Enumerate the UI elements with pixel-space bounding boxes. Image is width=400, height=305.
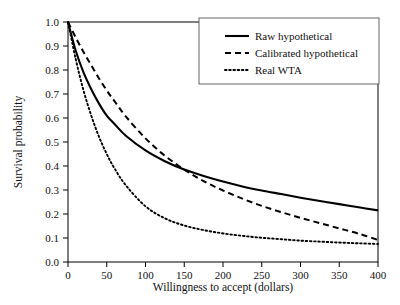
- x-tick-label: 250: [254, 269, 271, 281]
- y-tick-label: 0.3: [45, 184, 59, 196]
- y-tick-label: 0.0: [45, 256, 59, 268]
- y-axis-title: Survival probability: [12, 96, 25, 189]
- y-tick-label: 0.4: [45, 160, 59, 172]
- y-tick-label: 0.9: [45, 40, 59, 52]
- legend-label-calibrated-hypothetical: Calibrated hypothetical: [255, 47, 358, 59]
- x-tick-label: 50: [101, 269, 113, 281]
- y-tick-label: 1.0: [45, 16, 59, 28]
- x-tick-label: 400: [370, 269, 387, 281]
- x-axis-title: Willingness to accept (dollars): [153, 281, 294, 294]
- y-tick-label: 0.1: [45, 232, 59, 244]
- x-tick-label: 200: [215, 269, 232, 281]
- x-tick-label: 150: [176, 269, 193, 281]
- x-tick-label: 0: [65, 269, 71, 281]
- y-tick-label: 0.6: [45, 112, 59, 124]
- y-tick-label: 0.8: [45, 64, 59, 76]
- x-tick-label: 100: [137, 269, 154, 281]
- y-tick-label: 0.5: [45, 136, 59, 148]
- figure-container: 050100150200250300350400 0.00.10.20.30.4…: [0, 0, 400, 305]
- x-tick-label: 350: [331, 269, 348, 281]
- y-axis-ticks: 0.00.10.20.30.40.50.60.70.80.91.0: [45, 16, 68, 268]
- y-tick-label: 0.7: [45, 88, 59, 100]
- survival-curve-chart: 050100150200250300350400 0.00.10.20.30.4…: [0, 0, 400, 305]
- legend-label-real-wta: Real WTA: [255, 64, 302, 76]
- legend-label-raw-hypothetical: Raw hypothetical: [255, 30, 332, 42]
- y-tick-label: 0.2: [45, 208, 59, 220]
- x-tick-label: 300: [292, 269, 309, 281]
- x-axis-ticks: 050100150200250300350400: [65, 262, 387, 281]
- chart-legend: Raw hypotheticalCalibrated hypotheticalR…: [199, 18, 379, 84]
